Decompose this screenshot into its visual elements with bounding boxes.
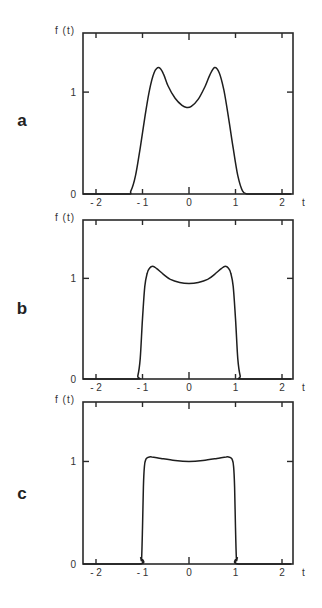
y-axis-label: f (t) xyxy=(55,25,75,36)
y-axis-label: f (t) xyxy=(55,394,75,405)
plot-frame xyxy=(83,220,293,379)
x-tick-label: 1 xyxy=(233,197,239,208)
y-tick-label: 0 xyxy=(70,189,76,200)
y-tick-label: 1 xyxy=(70,273,76,284)
f-t-curve xyxy=(83,266,291,379)
x-tick-label: 0 xyxy=(186,197,192,208)
x-tick-label: 2 xyxy=(279,197,285,208)
x-tick-label: - 2 xyxy=(90,382,102,393)
x-tick-label: - 2 xyxy=(90,197,102,208)
x-tick-label: 1 xyxy=(233,382,239,393)
figure: - 2- 101201f (t)ta- 2- 101201f (t)tb- 2-… xyxy=(0,0,322,608)
x-tick-label: 2 xyxy=(279,567,285,578)
y-tick-label: 1 xyxy=(70,456,76,467)
x-tick-label: - 1 xyxy=(137,382,149,393)
f-t-curve xyxy=(83,68,291,194)
plot-frame xyxy=(83,33,293,194)
chart-panel-b: - 2- 101201f (t)tb xyxy=(17,212,306,393)
chart-panel-a: - 2- 101201f (t)ta xyxy=(17,25,306,208)
f-t-curve xyxy=(83,457,291,564)
x-tick-label: 0 xyxy=(186,567,192,578)
y-tick-label: 1 xyxy=(70,87,76,98)
panel-letter-a: a xyxy=(17,111,27,130)
x-tick-label: 2 xyxy=(279,382,285,393)
x-tick-label: - 1 xyxy=(137,197,149,208)
x-tick-label: - 2 xyxy=(90,567,102,578)
panel-letter-c: c xyxy=(17,484,26,503)
panel-letter-b: b xyxy=(17,299,27,318)
plot-frame xyxy=(83,402,293,564)
y-axis-label: f (t) xyxy=(55,212,75,223)
chart-panel-c: - 2- 101201f (t)tc xyxy=(17,394,306,578)
x-axis-label: t xyxy=(302,382,306,393)
x-tick-label: 0 xyxy=(186,382,192,393)
x-tick-label: - 1 xyxy=(137,567,149,578)
x-tick-label: 1 xyxy=(233,567,239,578)
x-axis-label: t xyxy=(302,197,306,208)
y-tick-label: 0 xyxy=(70,374,76,385)
y-tick-label: 0 xyxy=(70,559,76,570)
x-axis-label: t xyxy=(302,567,306,578)
